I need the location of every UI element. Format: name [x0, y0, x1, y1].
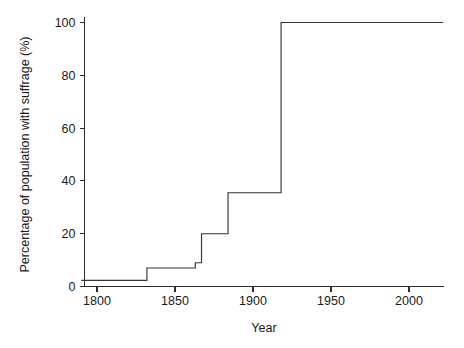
y-axis-tick-label: 20 [62, 227, 76, 241]
y-axis-title: Percentage of population with suffrage (… [18, 36, 32, 272]
y-axis-tick-label: 0 [69, 280, 76, 294]
y-axis-tick-label: 40 [62, 174, 76, 188]
suffrage-step-chart-figure: 02040608010018001850190019502000YearPerc… [0, 0, 464, 348]
chart-canvas: 02040608010018001850190019502000YearPerc… [0, 0, 464, 348]
x-axis-tick-label: 1900 [239, 294, 267, 308]
data-series-line [81, 23, 443, 281]
x-axis-tick-label: 1950 [317, 294, 345, 308]
x-axis-tick-label: 1800 [83, 294, 111, 308]
x-axis-title: Year [251, 321, 276, 335]
y-axis-tick-label: 100 [55, 16, 76, 30]
x-axis-tick-label: 2000 [395, 294, 423, 308]
x-axis-tick-label: 1850 [161, 294, 189, 308]
y-axis-tick-label: 80 [62, 69, 76, 83]
y-axis-tick-label: 60 [62, 122, 76, 136]
